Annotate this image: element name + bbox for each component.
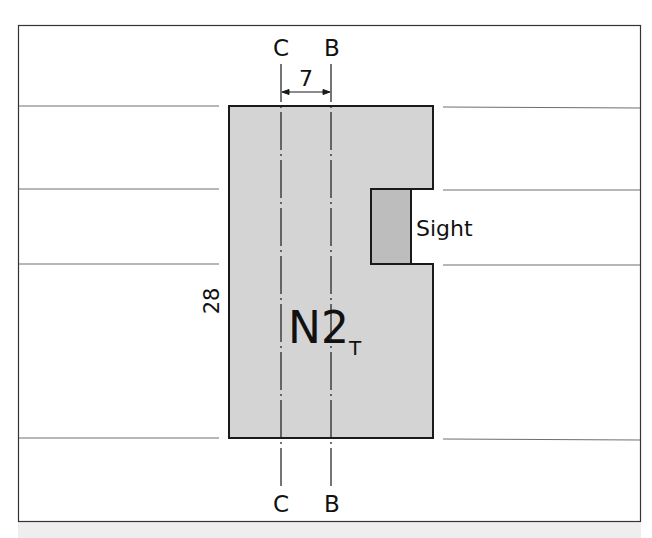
section-label-c-top: C <box>273 35 289 61</box>
sight-rectangle <box>371 189 411 264</box>
dimension-width-value: 7 <box>299 66 313 91</box>
main-block-label-main: N2 <box>288 302 349 353</box>
rule-lines-left <box>19 106 219 438</box>
main-block-label-subscript: T <box>348 336 362 360</box>
section-label-b-top: B <box>324 35 340 61</box>
sight-label: Sight <box>416 216 473 241</box>
section-label-c-bottom: C <box>273 491 289 517</box>
technical-diagram: C B 7 28 N2T Sight C B <box>0 0 652 538</box>
dimension-height-value: 28 <box>200 288 224 315</box>
rule-lines-right <box>443 107 640 440</box>
section-label-b-bottom: B <box>324 491 340 517</box>
